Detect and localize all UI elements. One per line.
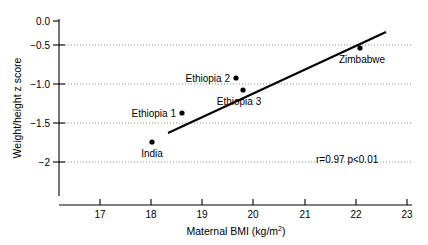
x-tick-label-21: 21 <box>299 209 311 220</box>
label-zimbabwe: Zimbabwe <box>339 54 386 65</box>
y-tick-label-0: 0.0 <box>36 16 50 27</box>
data-point-ethiopia-1[interactable] <box>179 110 184 115</box>
label-ethiopia-1: Ethiopia 1 <box>132 108 177 119</box>
x-axis: 17 18 19 20 21 22 23 Maternal BMI (kg/m2… <box>59 199 413 237</box>
label-ethiopia-2: Ethiopia 2 <box>186 73 231 84</box>
chart-figure: 0.0 −0.5 −1.0 −1.5 −2 Weight/height z sc… <box>0 0 428 245</box>
scatter-plot: 0.0 −0.5 −1.0 −1.5 −2 Weight/height z sc… <box>0 0 428 245</box>
x-axis-title: Maternal BMI (kg/m2) <box>186 225 285 237</box>
data-point-labels: India Ethiopia 1 Ethiopia 2 Ethiopia 3 Z… <box>132 54 386 159</box>
x-tick-label-23: 23 <box>401 209 413 220</box>
statistics-annotation: r=0.97 p<0.01 <box>316 154 379 165</box>
x-tick-label-20: 20 <box>247 209 259 220</box>
y-axis-title: Weight/height z score <box>11 57 23 158</box>
y-tick-label-neg1-0: −1.0 <box>30 79 50 90</box>
label-ethiopia-3: Ethiopia 3 <box>217 96 262 107</box>
x-axis-title-base: Maternal BMI (kg/m <box>186 225 278 237</box>
label-india: India <box>141 148 163 159</box>
data-point-ethiopia-3[interactable] <box>240 87 245 92</box>
x-tick-label-22: 22 <box>350 209 362 220</box>
y-tick-label-neg1-5: −1.5 <box>30 118 50 129</box>
data-points <box>149 45 362 144</box>
x-tick-label-19: 19 <box>196 209 208 220</box>
data-point-india[interactable] <box>149 139 154 144</box>
x-tick-label-17: 17 <box>94 209 106 220</box>
data-point-zimbabwe[interactable] <box>357 45 362 50</box>
y-tick-label-neg0-5: −0.5 <box>30 40 50 51</box>
y-tick-label-neg2-0: −2 <box>39 157 51 168</box>
data-point-ethiopia-2[interactable] <box>233 75 238 80</box>
x-axis-title-close: ) <box>282 225 286 237</box>
x-tick-label-18: 18 <box>145 209 157 220</box>
y-axis: 0.0 −0.5 −1.0 −1.5 −2 Weight/height z sc… <box>11 16 65 196</box>
